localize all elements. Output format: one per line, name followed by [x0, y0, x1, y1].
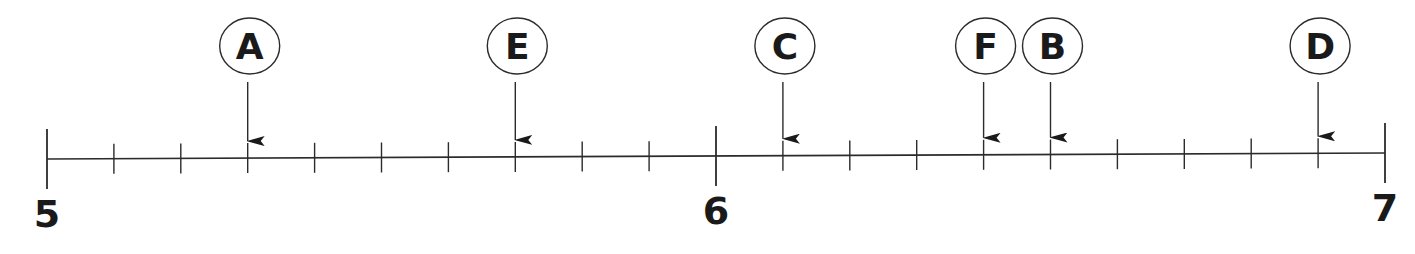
marker-letter: C: [772, 26, 798, 67]
major-label-6: 6: [703, 189, 729, 233]
major-label-5: 5: [34, 192, 60, 236]
marker-D: D: [1290, 18, 1350, 136]
point-markers: AECFBD: [220, 18, 1350, 141]
marker-letter: F: [973, 26, 998, 67]
major-label-7: 7: [1372, 186, 1398, 230]
marker-C: C: [755, 18, 815, 139]
marker-letter: B: [1039, 26, 1066, 67]
marker-letter: E: [505, 26, 530, 67]
marker-B: B: [1023, 18, 1083, 138]
marker-F: F: [956, 18, 1016, 138]
number-line-diagram: 567 AECFBD: [0, 0, 1415, 254]
marker-A: A: [220, 18, 280, 141]
major-labels: 567: [34, 186, 1398, 236]
marker-letter: D: [1305, 26, 1335, 67]
marker-E: E: [487, 18, 547, 140]
number-line-canvas: 567 AECFBD: [0, 0, 1415, 254]
marker-letter: A: [236, 26, 264, 67]
